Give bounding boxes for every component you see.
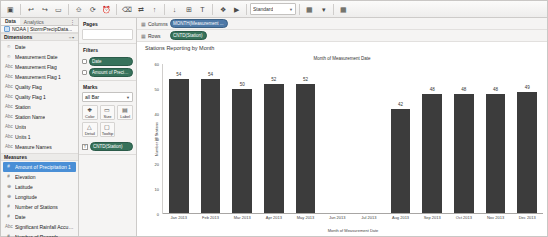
measure-number-of-stations[interactable]: # Number of Stations	[1, 202, 78, 212]
filter-pill-precipitation[interactable]: Amount of Precip...	[89, 68, 133, 77]
marks-size-button[interactable]: ▭ Size	[100, 105, 116, 120]
dimension-label: Date	[15, 44, 26, 50]
tab-data[interactable]: Data	[1, 18, 20, 25]
dimension-quality-flag-1[interactable]: Abc Quality Flag 1	[1, 92, 78, 102]
bar-cell[interactable]: 49	[511, 64, 543, 214]
dimension-measurement-flag-1[interactable]: Abc Measurement Flag 1	[1, 72, 78, 82]
label-icon[interactable]: T	[82, 144, 88, 150]
marks-pill-label: CNTD(Station)	[93, 144, 123, 149]
filter-checkbox-icon[interactable]	[82, 70, 87, 75]
dimension-station[interactable]: Abc Station	[1, 102, 78, 112]
presentation-mode-button[interactable]: ▶	[230, 3, 243, 16]
view-area: ▦ Columns MONTH(Measurement ... ▦ Rows C…	[137, 18, 547, 236]
redo-button[interactable]: ↪	[38, 3, 51, 16]
grid-icon: ▦	[141, 33, 146, 39]
rows-dropzone[interactable]: CNTD(Station)	[170, 31, 543, 41]
group-members-button[interactable]: ⊞	[182, 3, 195, 16]
marks-color-label: Color	[85, 114, 95, 119]
y-axis-tick-label: 60	[155, 62, 159, 67]
marks-label-button[interactable]: ▤ Label	[117, 105, 133, 120]
dimension-date[interactable]: ⏲ Date	[1, 42, 78, 52]
number-icon: #	[5, 235, 12, 237]
swap-rows-cols-button[interactable]: ⇄	[134, 3, 147, 16]
number-icon: #	[5, 165, 12, 170]
pause-auto-update-button[interactable]: ⏰	[100, 3, 113, 16]
bar[interactable]: 52	[296, 84, 316, 214]
filter-pill-date[interactable]: Date	[89, 57, 133, 66]
dimension-measurement-flag[interactable]: Abc Measurement Flag	[1, 62, 78, 72]
pages-dropzone[interactable]	[82, 29, 133, 40]
sort-ascending-button[interactable]: ↑	[148, 3, 161, 16]
rows-pill-cntd-station[interactable]: CNTD(Station)	[170, 31, 207, 40]
undo-button[interactable]: ↩	[24, 3, 37, 16]
new-worksheet-button[interactable]: ▭	[52, 3, 65, 16]
bar-cell[interactable]: 48	[448, 64, 480, 214]
measure-elevation[interactable]: # Elevation	[1, 172, 78, 182]
chart-column-header: Month of Measurement Date	[137, 56, 547, 61]
dimension-units-1[interactable]: Abc Units 1	[1, 132, 78, 142]
bar-cell[interactable]: 48	[416, 64, 448, 214]
bar[interactable]: 49	[517, 92, 537, 215]
bar-value-label: 54	[201, 72, 221, 77]
measure-label: Number of Stations	[15, 204, 58, 210]
bar[interactable]: 54	[201, 79, 221, 214]
new-data-source-button[interactable]: ⎒	[72, 3, 85, 16]
columns-pill-month[interactable]: MONTH(Measurement ...	[170, 19, 228, 28]
datasource-name: NOAA | StormPrecipData...	[12, 26, 72, 32]
bar[interactable]: 48	[486, 94, 506, 214]
bar-value-label: 54	[169, 72, 189, 77]
dimension-label: Quality Flag	[15, 84, 42, 90]
chevron-down-icon-axes[interactable]: ▾	[317, 3, 330, 16]
fit-select[interactable]: Standard ▼	[250, 3, 296, 15]
bar[interactable]: 52	[264, 84, 284, 214]
marks-pill[interactable]: CNTD(Station)	[90, 142, 133, 151]
marks-color-button[interactable]: ❖ Color	[82, 105, 98, 120]
number-icon: #	[5, 175, 12, 180]
bar[interactable]: 50	[232, 89, 252, 214]
grid-icon: ▦	[141, 21, 146, 27]
measure-date[interactable]: # Date	[1, 212, 78, 222]
bar-cell[interactable]: 48	[480, 64, 512, 214]
marks-type-select[interactable]: all Bar ▼	[82, 92, 133, 102]
dimension-quality-flag[interactable]: Abc Quality Flag	[1, 82, 78, 92]
bar-cell[interactable]: 52	[258, 64, 290, 214]
bar[interactable]: 48	[454, 94, 474, 214]
marks-detail-button[interactable]: △ Detail	[82, 122, 98, 137]
bar[interactable]: 48	[422, 94, 442, 214]
refresh-data-source-button[interactable]: ⟳	[86, 3, 99, 16]
filter-checkbox-icon[interactable]	[82, 59, 87, 64]
dimensions-tools-icon[interactable]: ⎯▾	[69, 35, 75, 40]
highlight-button[interactable]: ❖	[216, 3, 229, 16]
bar-cell[interactable]	[353, 64, 385, 214]
bar-cell[interactable]	[321, 64, 353, 214]
bar-cell[interactable]: 50	[226, 64, 258, 214]
save-button[interactable]: ▣	[4, 3, 17, 16]
bar-value-label: 48	[454, 87, 474, 92]
fix-axes-button[interactable]: ▦	[303, 3, 316, 16]
bar-cell[interactable]: 54	[195, 64, 227, 214]
dimension-station-name[interactable]: Abc Station Name	[1, 112, 78, 122]
measure-latitude[interactable]: ⊕ Latitude	[1, 182, 78, 192]
data-pane-menu-icon[interactable]: ⋮	[70, 18, 78, 25]
measure-significant-rainfall[interactable]: Abc Significant Rainfall Accum...	[1, 222, 78, 232]
measure-amount-of-precipitation[interactable]: # Amount of Precipitation 1	[3, 162, 76, 172]
show-mark-labels-button[interactable]: T	[196, 3, 209, 16]
clear-sheet-button[interactable]: ⌫	[120, 3, 133, 16]
dimension-measure-names[interactable]: Abc Measure Names	[1, 142, 78, 152]
sort-descending-button[interactable]: ↓	[168, 3, 181, 16]
bar[interactable]: 42	[391, 109, 411, 214]
measure-number-of-records[interactable]: # Number of Records	[1, 232, 78, 237]
show-me-button[interactable]: ▦	[337, 3, 350, 16]
bar[interactable]: 54	[169, 79, 189, 214]
bar-cell[interactable]: 52	[290, 64, 322, 214]
measure-longitude[interactable]: ⊕ Longitude	[1, 192, 78, 202]
dimension-measurement-date[interactable]: ⏲ Measurement Date	[1, 52, 78, 62]
bar-cell[interactable]: 54	[163, 64, 195, 214]
dimension-units[interactable]: Abc Units	[1, 122, 78, 132]
tab-analytics[interactable]: Analytics	[20, 18, 48, 25]
dimension-label: Station	[15, 104, 31, 110]
bar-cell[interactable]: 42	[385, 64, 417, 214]
columns-dropzone[interactable]: MONTH(Measurement ...	[170, 19, 543, 29]
datasource-row[interactable]: NOAA | StormPrecipData...	[1, 26, 78, 33]
marks-tooltip-button[interactable]: ▢ Tooltip	[100, 122, 116, 137]
